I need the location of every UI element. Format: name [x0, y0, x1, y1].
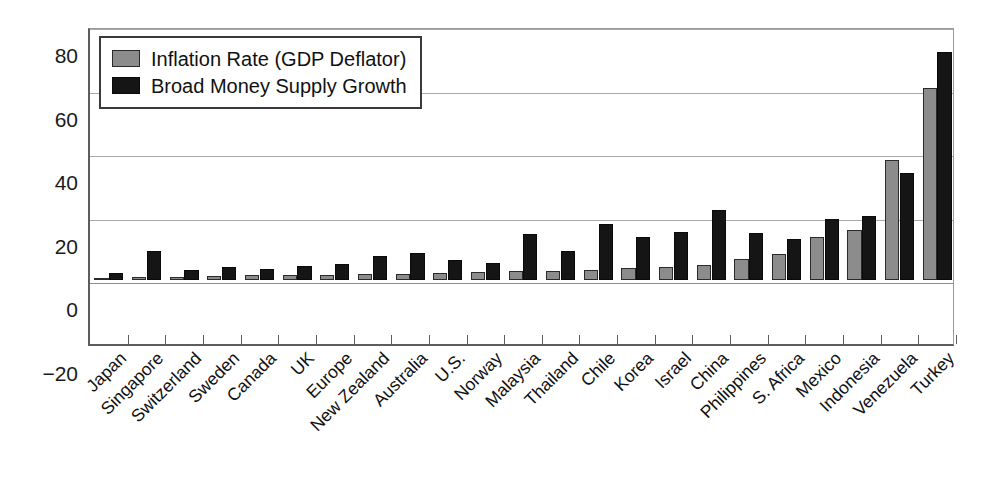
- x-tick: [542, 335, 543, 344]
- x-tick: [805, 335, 806, 344]
- x-tick: [918, 335, 919, 344]
- x-axis-label-israel: Israel: [650, 348, 695, 393]
- y-tick-label-80: 80: [8, 44, 78, 68]
- bar-money-supply: [561, 251, 575, 280]
- x-tick: [692, 335, 693, 344]
- y-axis: 806040200−20: [0, 28, 78, 346]
- x-tick: [843, 335, 844, 344]
- x-tick: [617, 335, 618, 344]
- bar-money-supply: [712, 210, 726, 281]
- bar-inflation: [94, 278, 108, 280]
- bar-inflation: [847, 230, 861, 280]
- bar-money-supply: [787, 239, 801, 280]
- bar-money-supply: [749, 233, 763, 280]
- bar-inflation: [584, 270, 598, 281]
- bar-inflation: [471, 272, 485, 280]
- bar-money-supply: [109, 273, 123, 281]
- legend-label-money-supply: Broad Money Supply Growth: [151, 76, 407, 96]
- bar-inflation: [621, 268, 635, 280]
- x-tick: [128, 335, 129, 344]
- bar-inflation: [245, 275, 259, 281]
- bar-inflation: [659, 267, 673, 280]
- bar-money-supply: [335, 264, 349, 280]
- legend-swatch-inflation: [112, 50, 140, 67]
- bar-money-supply: [297, 266, 311, 281]
- x-tick: [241, 335, 242, 344]
- bar-inflation: [320, 275, 334, 281]
- y-tick-label-40: 40: [8, 171, 78, 195]
- bar-inflation: [734, 259, 748, 280]
- bar-money-supply: [900, 173, 914, 280]
- bar-money-supply: [410, 253, 424, 280]
- bar-money-supply: [825, 219, 839, 281]
- bar-inflation: [283, 275, 297, 281]
- x-tick: [655, 335, 656, 344]
- bar-money-supply: [636, 237, 650, 281]
- x-label-text: Korea: [610, 348, 658, 396]
- bar-inflation: [697, 265, 711, 280]
- bar-money-supply: [222, 267, 236, 280]
- bar-inflation: [923, 88, 937, 280]
- bar-money-supply: [448, 260, 462, 280]
- x-tick: [165, 335, 166, 344]
- x-tick: [203, 335, 204, 344]
- x-tick: [881, 335, 882, 344]
- bar-chart-figure: 806040200−20 JapanSingaporeSwitzerlandSw…: [0, 0, 989, 498]
- x-tick: [316, 335, 317, 344]
- x-tick: [956, 335, 957, 344]
- x-tick: [730, 335, 731, 344]
- legend-swatch-money-supply: [112, 77, 140, 94]
- bar-inflation: [772, 254, 786, 281]
- legend-item-inflation: Inflation Rate (GDP Deflator): [112, 45, 407, 72]
- bar-money-supply: [937, 52, 951, 280]
- bar-inflation: [810, 237, 824, 280]
- bar-inflation: [433, 273, 447, 280]
- legend-item-money-supply: Broad Money Supply Growth: [112, 72, 407, 99]
- x-tick: [429, 335, 430, 344]
- x-tick: [504, 335, 505, 344]
- y-tick-label-0: 0: [8, 298, 78, 322]
- bar-money-supply: [147, 251, 161, 281]
- x-tick: [278, 335, 279, 344]
- x-tick: [768, 335, 769, 344]
- bar-money-supply: [373, 256, 387, 280]
- bar-money-supply: [486, 263, 500, 280]
- y-tick-label-60: 60: [8, 108, 78, 132]
- bar-money-supply: [674, 232, 688, 280]
- bar-money-supply: [260, 269, 274, 280]
- bar-inflation: [546, 271, 560, 281]
- x-tick: [467, 335, 468, 344]
- bar-inflation: [885, 160, 899, 281]
- bar-inflation: [132, 277, 146, 280]
- x-tick: [579, 335, 580, 344]
- x-axis-category-labels: JapanSingaporeSwitzerlandSwedenCanadaUKE…: [88, 348, 954, 498]
- bar-money-supply: [523, 234, 537, 280]
- x-label-text: Israel: [650, 348, 695, 393]
- bar-money-supply: [599, 224, 613, 280]
- chart-legend: Inflation Rate (GDP Deflator) Broad Mone…: [99, 36, 422, 109]
- bar-inflation: [396, 274, 410, 280]
- x-tick: [354, 335, 355, 344]
- bar-inflation: [509, 271, 523, 281]
- x-tick: [391, 335, 392, 344]
- bar-inflation: [207, 276, 221, 281]
- x-axis-label-korea: Korea: [610, 348, 658, 396]
- bar-money-supply: [862, 216, 876, 281]
- legend-label-inflation: Inflation Rate (GDP Deflator): [151, 49, 406, 69]
- bar-money-supply: [184, 270, 198, 280]
- bar-inflation: [170, 277, 184, 280]
- bar-inflation: [358, 274, 372, 280]
- y-tick-label-20: 20: [8, 235, 78, 259]
- y-tick-label--20: −20: [8, 362, 78, 386]
